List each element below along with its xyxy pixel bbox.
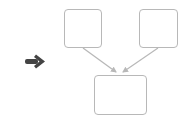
diagram-canvas [0, 0, 189, 120]
node-top-right [139, 9, 178, 48]
edge-top-right-to-bottom [123, 48, 158, 72]
node-top-left [64, 9, 102, 48]
right-arrow-icon [25, 55, 45, 69]
edge-top-left-to-bottom [83, 48, 116, 72]
node-bottom [94, 75, 147, 115]
